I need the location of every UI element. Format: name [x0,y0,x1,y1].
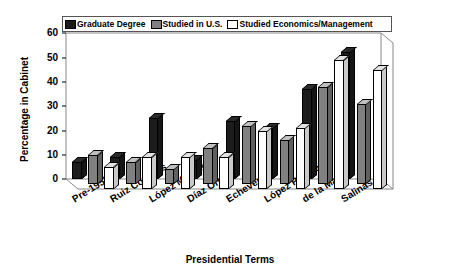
chart-legend: Graduate Degree Studied in U.S. Studied … [62,16,392,32]
bar-face [296,128,306,189]
legend-label: Studied Economics/Management [239,19,372,29]
bar-side [267,126,272,189]
bar-face [334,60,344,189]
bar-side [158,114,163,179]
legend-label: Studied in U.S. [163,19,223,29]
bar [126,162,136,184]
bar [280,140,290,184]
bar-side [229,153,234,189]
bar-side [251,121,256,184]
bar-side [328,82,333,184]
bar-face [373,70,383,189]
bar [72,162,82,179]
bar [203,148,213,185]
legend-swatch-icon [151,20,162,29]
legend-swatch-icon [65,20,76,29]
bar-side [305,124,310,189]
legend-item-graduate-degree: Graduate Degree [65,19,146,29]
bar-face [219,157,229,189]
bar-side [120,153,125,179]
legend-item-studied-in-us: Studied in U.S. [151,19,223,29]
bar-face [357,104,367,184]
bar-face [181,157,191,189]
legend-swatch-icon [227,20,238,29]
bar-face [104,167,114,189]
bar [219,157,229,189]
bar [142,157,152,189]
bar [88,155,98,184]
bar-side [190,153,195,189]
bar-side [213,143,218,184]
bar-side [289,136,294,184]
bar-side [366,99,371,183]
bar-side [273,124,278,179]
bar [357,104,367,184]
bar-side [114,163,119,189]
bar-side [382,66,387,189]
bar-side [136,158,141,184]
bar-side [235,116,240,179]
bar [104,167,114,189]
bar-side [350,48,355,179]
bar-face [88,155,98,184]
legend-item-studied-economics-management: Studied Economics/Management [227,19,372,29]
bar [242,126,252,184]
bar-chart: Graduate Degree Studied in U.S. Studied … [0,0,457,278]
bar-face [203,148,213,185]
bar-side [312,85,317,179]
bar-face [280,140,290,184]
bar-side [152,153,157,189]
bar [258,131,268,189]
bar-side [98,151,103,184]
bar-face [258,131,268,189]
bar-face [165,169,175,184]
bar [181,157,191,189]
legend-label: Graduate Degree [77,19,146,29]
bar [165,169,175,184]
bar [334,60,344,189]
bar [373,70,383,189]
bar [296,128,306,189]
bar [318,87,328,184]
bar-face [72,162,82,179]
bar-face [142,157,152,189]
bar-face [318,87,328,184]
bar-face [242,126,252,184]
bar-face [126,162,136,184]
bar-side [344,56,349,189]
